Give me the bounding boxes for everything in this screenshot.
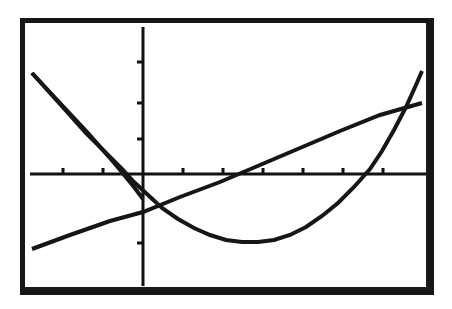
parabola-curve xyxy=(32,71,422,242)
graph-plot-area[interactable] xyxy=(30,27,426,286)
screenshot-root: y = 0.18x^2 - 0.6x - 2.4 y = 0.45x + 2.2… xyxy=(0,0,452,309)
graph-canvas xyxy=(30,27,426,286)
